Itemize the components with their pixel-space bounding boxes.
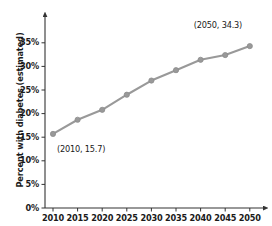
data-point-marker bbox=[198, 57, 203, 62]
data-point-marker bbox=[124, 92, 129, 97]
diabetes-projection-chart: Percent with diabetes (estimated) 0%5%10… bbox=[0, 0, 272, 226]
data-point-marker bbox=[50, 131, 55, 136]
y-tick-label: 0% bbox=[25, 203, 39, 213]
data-point-marker bbox=[247, 44, 252, 49]
data-point-marker bbox=[149, 78, 154, 83]
y-tick-label: 5% bbox=[25, 179, 39, 189]
plot-area bbox=[0, 0, 272, 226]
point-annotation: (2010, 15.7) bbox=[57, 144, 105, 154]
data-point-marker bbox=[173, 68, 178, 73]
data-series-line bbox=[53, 46, 250, 134]
y-tick-label: 15% bbox=[20, 132, 39, 142]
y-tick-label: 25% bbox=[20, 85, 39, 95]
axes bbox=[42, 16, 265, 212]
y-tick-label: 30% bbox=[20, 61, 39, 71]
data-point-marker bbox=[75, 117, 80, 122]
point-annotation: (2050, 34.3) bbox=[194, 20, 242, 30]
y-tick-label: 35% bbox=[20, 37, 39, 47]
x-tick-label: 2050 bbox=[234, 213, 266, 223]
y-tick-label: 10% bbox=[20, 155, 39, 165]
data-point-marker bbox=[223, 52, 228, 57]
data-point-marker bbox=[100, 107, 105, 112]
y-tick-label: 20% bbox=[20, 108, 39, 118]
data-point-markers bbox=[50, 44, 252, 137]
